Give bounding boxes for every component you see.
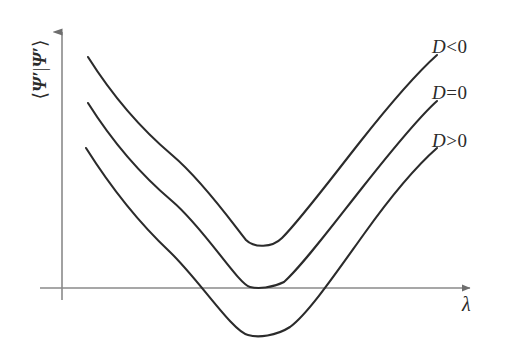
legend-symbol-d-negative: D <box>432 36 446 57</box>
legend-value-d-zero: 0 <box>457 82 467 103</box>
legend-label-d-negative: D<0 <box>432 37 467 56</box>
psi-prime-right: Ψ′ <box>29 47 50 68</box>
legend-value-d-negative: 0 <box>457 36 467 57</box>
ket-close-bracket: ⟩ <box>29 40 50 47</box>
curve-group <box>86 55 437 336</box>
axis-group <box>40 32 470 300</box>
psi-prime-left: Ψ′ <box>29 71 50 92</box>
legend-value-d-positive: 0 <box>457 130 467 151</box>
curve-d-positive <box>86 148 437 336</box>
figure-root: D<0 D=0 D>0 λ ⟨Ψ′|Ψ′⟩ <box>0 0 511 356</box>
legend-symbol-d-positive: D <box>432 130 446 151</box>
bra-ket-divider: | <box>29 68 50 72</box>
y-axis-label: ⟨Ψ′|Ψ′⟩ <box>30 15 49 125</box>
legend-operator-d-positive: > <box>446 130 457 151</box>
legend-operator-d-negative: < <box>446 36 457 57</box>
curve-d-zero <box>88 101 437 288</box>
legend-label-d-zero: D=0 <box>432 83 467 102</box>
x-axis-label: λ <box>462 294 471 314</box>
legend-symbol-d-zero: D <box>432 82 446 103</box>
bra-open-bracket: ⟨ <box>29 92 50 99</box>
curve-d-negative <box>88 55 437 246</box>
legend-operator-d-zero: = <box>446 82 457 103</box>
legend-label-d-positive: D>0 <box>432 131 467 150</box>
